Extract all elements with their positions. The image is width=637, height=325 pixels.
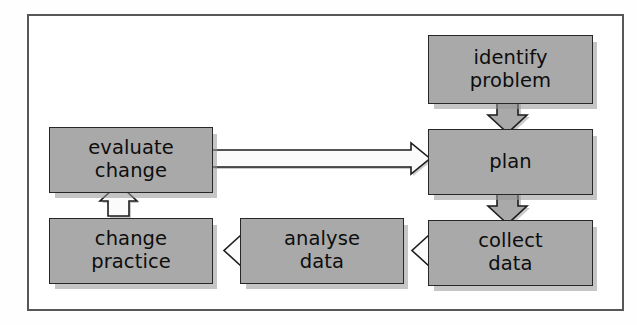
node-collect-data-label: collect data xyxy=(474,230,547,275)
node-evaluate-change[interactable]: evaluate change xyxy=(49,127,213,193)
node-evaluate-change-label: evaluate change xyxy=(84,137,178,182)
node-analyse-data[interactable]: analyse data xyxy=(240,218,404,284)
node-analyse-data-label: analyse data xyxy=(280,228,364,273)
node-identify-problem[interactable]: identify problem xyxy=(428,35,593,104)
node-change-practice[interactable]: change practice xyxy=(49,218,213,284)
node-identify-problem-label: identify problem xyxy=(466,47,555,92)
flowchart-diagram: identify problem plan collect data analy… xyxy=(0,0,637,325)
node-plan-label: plan xyxy=(485,151,536,174)
node-change-practice-label: change practice xyxy=(87,228,175,273)
node-plan[interactable]: plan xyxy=(428,129,593,195)
node-collect-data[interactable]: collect data xyxy=(428,220,593,286)
